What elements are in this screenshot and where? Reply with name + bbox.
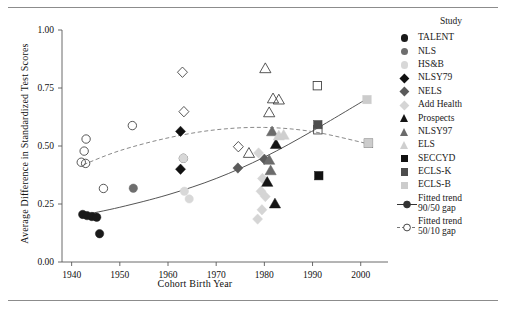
data-point-hs-b [185,195,193,203]
legend-item-ecls-k[interactable]: ECLS-K [396,165,504,178]
data-point-open [177,67,187,77]
legend-swatch-square-icon [396,152,418,165]
legend-item-talent[interactable]: TALENT [396,31,504,44]
data-point-seccyd [315,171,323,179]
data-point-open [99,184,107,192]
legend-swatch-triangle-icon [396,138,418,151]
legend-items: TALENTNLSHS&BNLSY79NELSAdd HealthProspec… [396,31,504,238]
legend-item-hs-b[interactable]: HS&B [396,58,504,71]
legend-swatch-diamond-icon [396,71,418,84]
trend-line-50-10 [84,127,366,164]
legend-label: ELS [418,139,435,150]
data-point-add-health [257,205,267,215]
legend-label: NLSY97 [418,126,452,137]
legend-label: NLSY79 [418,72,452,83]
legend-title: Study [412,16,490,26]
data-point-open [82,135,90,143]
legend-item-ecls-b[interactable]: ECLS-B [396,178,504,191]
legend-item-nels[interactable]: NELS [396,85,504,98]
data-point-prospects [270,139,281,149]
legend-label-line1: Fitted trend [418,193,462,203]
legend-trend-90-50[interactable]: Fitted trend90/50 gap [396,192,504,215]
data-point-ecls-k [314,120,322,128]
data-point-open [313,81,321,89]
legend-label: NELS [418,86,442,97]
y-tick-label: 0.50 [37,141,54,151]
legend-swatch-triangle-icon [396,125,418,138]
data-point-open [179,106,189,116]
legend-label: ECLS-K [418,166,451,177]
legend-label-line1: Fitted trend [418,216,462,226]
legend-swatch-circle-icon [396,58,418,71]
legend-label: NLS [418,46,436,57]
legend-label: TALENT [418,32,454,43]
legend-trend-50-10[interactable]: Fitted trend50/10 gap [396,215,504,238]
data-point-open [260,63,271,73]
legend-swatch-circle-icon [396,45,418,58]
x-axis-title: Cohort Birth Year [0,278,390,289]
data-point-prospects [269,198,280,208]
data-point-open [233,141,243,151]
legend-label: HS&B [418,59,444,70]
data-point-open [80,147,88,155]
legend-swatch-circle-icon [396,31,418,44]
legend-item-seccyd[interactable]: SECCYD [396,152,504,165]
legend: Study TALENTNLSHS&BNLSY79NELSAdd HealthP… [396,16,504,238]
trend-line-90-50 [84,100,366,215]
data-point-nlsy79 [176,126,186,136]
data-point-nlsy79 [176,164,186,174]
data-point-nels [233,163,243,173]
data-point-add-health [253,214,263,224]
legend-swatch-triangle-icon [396,112,418,125]
legend-swatch-diamond-icon [396,98,418,111]
legend-item-nlsy97[interactable]: NLSY97 [396,125,504,138]
legend-item-nls[interactable]: NLS [396,44,504,57]
legend-label: SECCYD [418,153,455,164]
data-point-nlsy97 [266,126,277,136]
legend-trend-line-icon [396,220,418,233]
legend-swatch-square-icon [396,165,418,178]
data-point-nls [129,184,137,192]
data-point-ecls-b [363,95,371,103]
y-tick-label: 0.75 [37,83,54,93]
legend-label: Fitted trend90/50 gap [418,193,462,214]
legend-item-nlsy79[interactable]: NLSY79 [396,71,504,84]
legend-item-els[interactable]: ELS [396,138,504,151]
legend-label: ECLS-B [418,179,451,190]
y-tick-label: 0.25 [37,199,54,209]
data-point-talent [95,229,103,237]
data-point-open [243,148,254,158]
y-tick-label: 0.00 [37,257,54,267]
data-point-nlsy97 [265,165,276,175]
legend-swatch-diamond-icon [396,85,418,98]
legend-swatch-square-icon [396,178,418,191]
legend-label: Add Health [418,99,462,110]
data-point-hs-b [180,187,188,195]
legend-label-line2: 50/10 gap [418,226,456,236]
legend-label-line2: 90/50 gap [418,203,456,213]
legend-trend-line-icon [396,197,418,210]
legend-label: Fitted trend50/10 gap [418,216,462,237]
data-point-open [264,107,275,117]
y-axis-title: Average Difference in Standardized Test … [19,24,30,264]
data-point-ecls-b [364,139,372,147]
y-tick-label: 1.00 [37,25,54,35]
data-point-talent [92,213,100,221]
data-point-open [81,159,89,167]
data-point-hs-b [179,154,187,162]
legend-item-prospects[interactable]: Prospects [396,111,504,124]
legend-label: Prospects [418,113,454,124]
legend-item-add-health[interactable]: Add Health [396,98,504,111]
data-point-open [128,121,136,129]
